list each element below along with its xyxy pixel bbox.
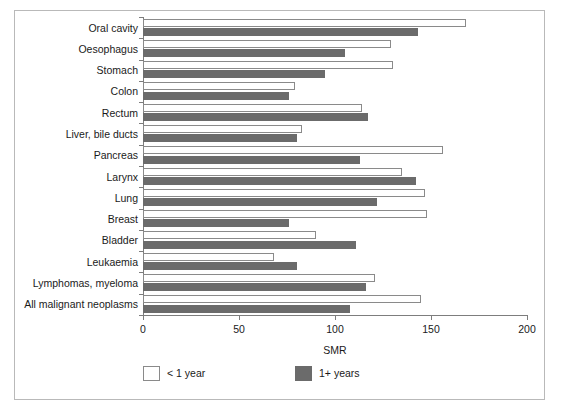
bar-under-1-year — [143, 61, 393, 69]
category-label: Colon — [111, 86, 138, 97]
category-row: Larynx — [143, 166, 527, 187]
category-label: Liver, bile ducts — [66, 129, 138, 140]
bar-under-1-year — [143, 210, 427, 218]
category-label: Pancreas — [94, 150, 138, 161]
plot-area: Oral cavityOesophagusStomachColonRectumL… — [143, 17, 527, 315]
x-axis-title: SMR — [143, 345, 527, 356]
category-label: Breast — [108, 214, 138, 225]
bar-under-1-year — [143, 274, 375, 282]
category-label: Larynx — [106, 172, 138, 183]
category-row: All malignant neoplasms — [143, 294, 527, 315]
category-label: Oral cavity — [88, 23, 138, 34]
category-row: Pancreas — [143, 145, 527, 166]
bar-1-plus-years — [143, 177, 416, 185]
category-row: Leukaemia — [143, 251, 527, 272]
bar-1-plus-years — [143, 262, 297, 270]
bar-1-plus-years — [143, 92, 289, 100]
category-label: Lung — [115, 193, 138, 204]
x-tick-label: 50 — [233, 324, 245, 335]
category-row: Rectum — [143, 102, 527, 123]
category-row: Colon — [143, 81, 527, 102]
bar-under-1-year — [143, 231, 316, 239]
category-label: All malignant neoplasms — [24, 299, 138, 310]
category-row: Breast — [143, 209, 527, 230]
category-row: Lymphomas, myeloma — [143, 272, 527, 293]
bar-1-plus-years — [143, 28, 418, 36]
bar-1-plus-years — [143, 305, 350, 313]
bar-1-plus-years — [143, 283, 366, 291]
bar-under-1-year — [143, 19, 466, 27]
x-tick-label: 100 — [326, 324, 344, 335]
x-tick — [143, 315, 144, 320]
legend-swatch-grey — [295, 366, 312, 381]
legend-swatch-white — [143, 366, 160, 381]
x-tick-label: 200 — [518, 324, 536, 335]
category-label: Leukaemia — [87, 257, 138, 268]
category-row: Lung — [143, 187, 527, 208]
bar-1-plus-years — [143, 49, 345, 57]
legend-entry: < 1 year — [143, 366, 205, 381]
bar-under-1-year — [143, 146, 443, 154]
bar-under-1-year — [143, 104, 362, 112]
legend-label: < 1 year — [167, 368, 205, 379]
category-label: Bladder — [102, 235, 138, 246]
bar-under-1-year — [143, 189, 425, 197]
category-label: Stomach — [97, 65, 138, 76]
category-row: Liver, bile ducts — [143, 123, 527, 144]
x-tick — [335, 315, 336, 320]
bar-under-1-year — [143, 168, 402, 176]
category-label: Oesophagus — [78, 44, 138, 55]
bar-1-plus-years — [143, 70, 325, 78]
bar-1-plus-years — [143, 156, 360, 164]
x-tick-label: 0 — [140, 324, 146, 335]
category-row: Oesophagus — [143, 38, 527, 59]
bar-1-plus-years — [143, 241, 356, 249]
bar-under-1-year — [143, 295, 421, 303]
legend-entry: 1+ years — [295, 366, 360, 381]
x-tick — [527, 315, 528, 320]
bar-under-1-year — [143, 40, 391, 48]
x-tick — [431, 315, 432, 320]
x-tick — [239, 315, 240, 320]
bar-1-plus-years — [143, 219, 289, 227]
category-label: Lymphomas, myeloma — [33, 278, 138, 289]
category-row: Bladder — [143, 230, 527, 251]
chart-figure: Oral cavityOesophagusStomachColonRectumL… — [14, 10, 545, 400]
category-row: Stomach — [143, 60, 527, 81]
bar-1-plus-years — [143, 113, 368, 121]
bar-under-1-year — [143, 82, 295, 90]
category-label: Rectum — [102, 108, 138, 119]
bar-under-1-year — [143, 125, 302, 133]
x-tick-label: 150 — [422, 324, 440, 335]
legend-label: 1+ years — [319, 368, 360, 379]
bar-1-plus-years — [143, 198, 377, 206]
category-row: Oral cavity — [143, 17, 527, 38]
bar-1-plus-years — [143, 134, 297, 142]
bar-under-1-year — [143, 253, 274, 261]
